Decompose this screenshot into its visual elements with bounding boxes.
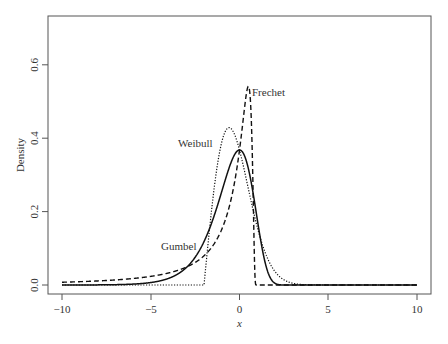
frechet-curve	[62, 86, 417, 285]
frechet-label: Frechet	[252, 86, 285, 98]
plot-frame	[48, 16, 431, 294]
x-tick-label: 10	[412, 303, 424, 315]
x-tick-label: −10	[53, 303, 71, 315]
y-axis-label: Density	[14, 137, 26, 172]
x-tick-label: −5	[145, 303, 157, 315]
y-tick-label: 0.6	[28, 57, 40, 71]
x-axis-label: x	[236, 317, 242, 329]
gumbel-curve	[62, 150, 417, 285]
weibull-label: Weibull	[178, 137, 213, 149]
y-tick-label: 0.0	[28, 278, 40, 292]
x-tick-label: 5	[325, 303, 331, 315]
y-tick-label: 0.2	[28, 205, 40, 219]
y-tick-label: 0.4	[28, 131, 40, 145]
y-axis	[42, 65, 48, 285]
gumbel-label: Gumbel	[161, 240, 196, 252]
x-tick-label: 0	[237, 303, 243, 315]
x-axis	[62, 294, 417, 300]
density-chart: −10 −5 0 5 10 x 0.0 0.2 0.4 0.6 Density …	[0, 0, 448, 344]
